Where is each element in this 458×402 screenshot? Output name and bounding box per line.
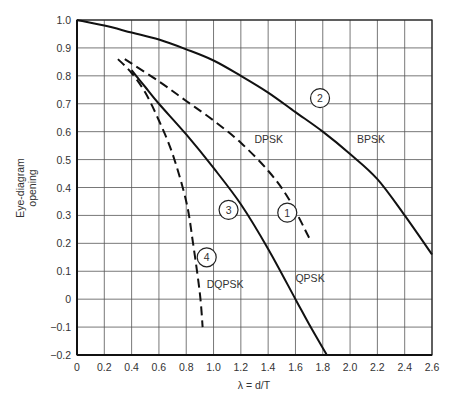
x-tick-label: 1.0 (206, 361, 221, 373)
x-tick-label: 1.8 (315, 361, 330, 373)
x-tick-label: 0.8 (179, 361, 194, 373)
series-label-dpsk: DPSK (255, 133, 284, 145)
x-tick-label: 1.2 (234, 361, 249, 373)
x-axis-label: λ = d/T (238, 379, 271, 391)
x-tick-label: 0.6 (152, 361, 167, 373)
y-tick-label: 1.0 (56, 14, 71, 26)
y-tick-label: 0.5 (56, 154, 71, 166)
x-tick-label: 0.2 (97, 361, 112, 373)
y-axis-label: Eye-diagramopening (14, 158, 38, 218)
x-tick-label: 1.4 (261, 361, 276, 373)
y-tick-label: −0.2 (50, 349, 71, 361)
axes: 00.20.40.60.81.01.21.41.61.82.02.22.42.6… (50, 14, 439, 373)
series-label-dqpsk: DQPSK (207, 278, 244, 290)
y-tick-label: −0.1 (50, 321, 71, 333)
x-tick-label: 0 (74, 361, 80, 373)
x-tick-label: 2.4 (397, 361, 412, 373)
series-label-bpsk: BPSK (357, 133, 385, 145)
svg-text:2: 2 (317, 92, 323, 104)
svg-text:3: 3 (226, 204, 232, 216)
x-tick-label: 2.0 (343, 361, 358, 373)
eye-diagram-chart: 00.20.40.60.81.01.21.41.61.82.02.22.42.6… (0, 0, 458, 402)
y-tick-label: 0 (65, 293, 71, 305)
x-tick-label: 0.4 (124, 361, 139, 373)
y-tick-label: 0.9 (56, 42, 71, 54)
y-tick-label: 0.2 (56, 237, 71, 249)
circled-marker-4: 4 (197, 248, 216, 267)
svg-text:4: 4 (204, 251, 210, 263)
y-tick-label: 0.8 (56, 70, 71, 82)
series-label-qpsk: QPSK (295, 272, 324, 284)
circled-marker-2: 2 (311, 89, 330, 108)
y-tick-label: 0.1 (56, 265, 71, 277)
x-tick-label: 2.2 (370, 361, 385, 373)
y-tick-label: 0.3 (56, 209, 71, 221)
y-tick-label: 0.4 (56, 182, 71, 194)
svg-text:1: 1 (284, 207, 290, 219)
y-tick-label: 0.7 (56, 98, 71, 110)
x-tick-label: 1.6 (288, 361, 303, 373)
y-tick-label: 0.6 (56, 126, 71, 138)
curve-dqpsk (118, 59, 203, 327)
circled-marker-1: 1 (278, 203, 297, 222)
x-tick-label: 2.6 (425, 361, 440, 373)
circled-marker-3: 3 (219, 200, 238, 219)
